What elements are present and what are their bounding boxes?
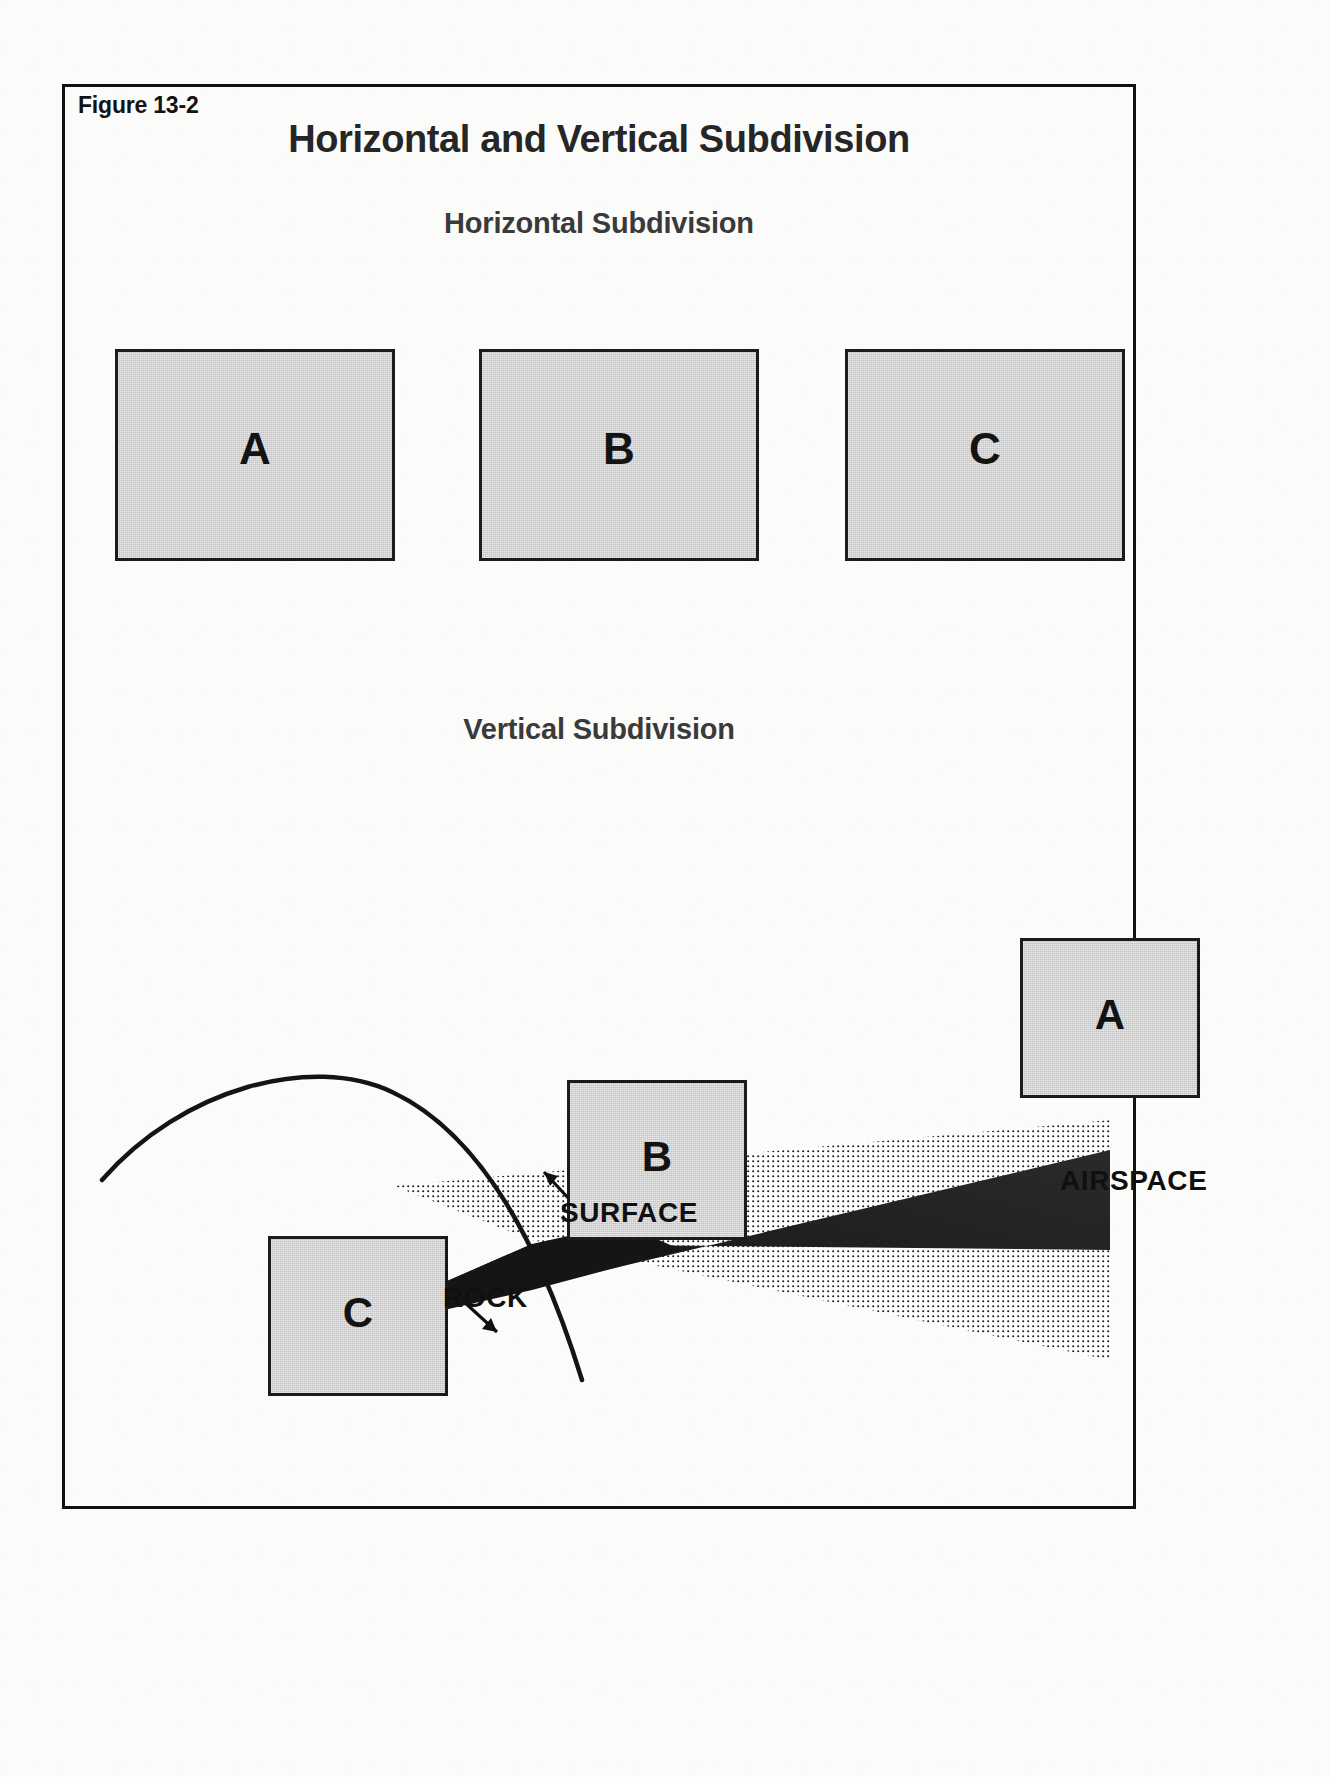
parcel-label: B [570, 1133, 744, 1181]
callout-label-rock: ROCK [443, 1282, 528, 1314]
parcel-vertical-c: C [268, 1236, 448, 1396]
parcel-label: A [118, 424, 392, 474]
figure-title: Horizontal and Vertical Subdivision [62, 118, 1136, 161]
parcel-label: B [482, 424, 756, 474]
parcel-vertical-a: A [1020, 938, 1200, 1098]
section-heading-vertical: Vertical Subdivision [62, 713, 1136, 746]
figure-number: Figure 13-2 [78, 92, 199, 119]
parcel-horizontal-b: B [479, 349, 759, 561]
callout-label-airspace: AIRSPACE [1060, 1165, 1207, 1197]
parcel-horizontal-a: A [115, 349, 395, 561]
parcel-label: C [271, 1289, 445, 1337]
parcel-label: C [848, 424, 1122, 474]
parcel-label: A [1023, 991, 1197, 1039]
parcel-horizontal-c: C [845, 349, 1125, 561]
callout-label-surface: SURFACE [560, 1197, 698, 1229]
section-heading-horizontal: Horizontal Subdivision [62, 207, 1136, 240]
